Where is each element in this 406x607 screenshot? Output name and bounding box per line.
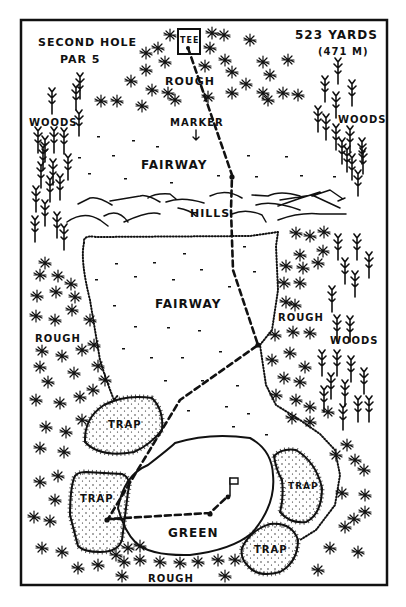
fairway-lower-label: FAIRWAY <box>155 297 221 311</box>
hole-title: SECOND HOLE <box>38 36 137 49</box>
trap-upper-left: TRAP <box>85 397 162 454</box>
trap-left: TRAP <box>70 472 129 552</box>
route-point-3 <box>104 517 109 522</box>
svg-text:TEE: TEE <box>180 36 199 45</box>
flag-icon <box>230 478 238 496</box>
rough-top-label: ROUGH <box>165 75 215 88</box>
hole-par: PAR 5 <box>60 53 101 66</box>
svg-text:TRAP: TRAP <box>254 544 288 555</box>
hole-meters: (471 M) <box>318 46 368 57</box>
golf-hole-map: SECOND HOLE PAR 5 523 YARDS (471 M) TEE … <box>0 0 406 607</box>
woods-right-top-label: WOODS <box>338 114 387 125</box>
woods-right-mid-trees <box>318 234 373 430</box>
hills-label: HILLS <box>190 207 230 220</box>
route-point-2 <box>255 342 260 347</box>
svg-text:TRAP: TRAP <box>288 481 319 491</box>
trap-right: TRAP <box>274 450 322 523</box>
marker-arrow-icon <box>193 130 199 140</box>
woods-left-trees <box>31 73 84 250</box>
svg-text:TRAP: TRAP <box>108 419 142 430</box>
rough-left-label: ROUGH <box>35 333 81 344</box>
hole-yards: 523 YARDS <box>295 28 378 42</box>
woods-left-label: WOODS <box>29 117 78 128</box>
woods-right-mid-label: WOODS <box>330 335 379 346</box>
fairway-upper-label: FAIRWAY <box>141 158 207 172</box>
route-point-1 <box>229 174 234 179</box>
green-label: GREEN <box>168 526 219 540</box>
rough-bottom-label: ROUGH <box>148 573 194 584</box>
route-point-4 <box>207 511 212 516</box>
rough-right-label: ROUGH <box>278 312 324 323</box>
route-point-5 <box>226 495 231 500</box>
trap-bottom-right: TRAP <box>242 524 298 574</box>
woods-right-top-trees <box>314 58 367 196</box>
svg-text:TRAP: TRAP <box>80 493 114 504</box>
